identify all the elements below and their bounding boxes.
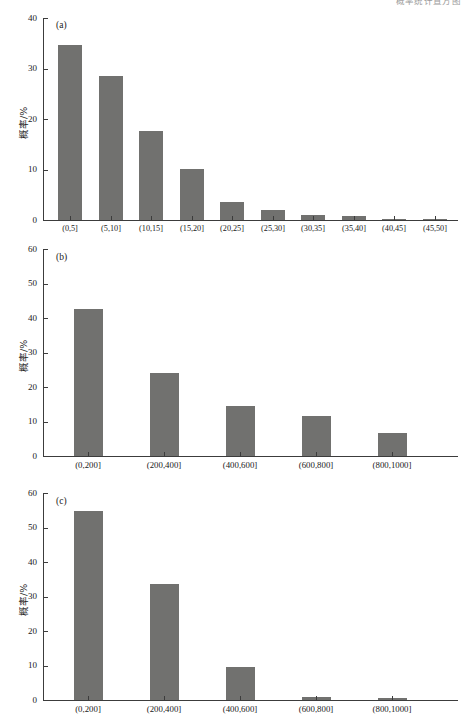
x-tick-a-0 <box>70 216 71 220</box>
panel-tag-b: (b) <box>56 252 67 262</box>
bar-a-2 <box>139 131 163 220</box>
x-tick-label-c-0: (0,200] <box>53 704 123 714</box>
bar-a-1 <box>99 76 123 220</box>
y-tick-c-40 <box>44 562 48 563</box>
x-tick-label-c-4: (800,1000] <box>357 704 427 714</box>
x-tick-c-0 <box>88 696 89 700</box>
x-tick-b-1 <box>164 452 165 456</box>
x-tick-label-b-2: (400,600] <box>205 460 275 470</box>
x-tick-b-2 <box>240 452 241 456</box>
x-tick-a-4 <box>232 216 233 220</box>
bar-b-1 <box>150 373 179 456</box>
bar-a-3 <box>180 169 204 220</box>
y-tick-a-40 <box>44 18 48 19</box>
x-tick-label-c-3: (600,800] <box>281 704 351 714</box>
x-tick-b-4 <box>392 452 393 456</box>
y-tick-c-50 <box>44 528 48 529</box>
y-tick-a-20 <box>44 119 48 120</box>
y-tick-label-a-30: 30 <box>11 64 37 73</box>
y-tick-label-c-10: 10 <box>11 661 37 670</box>
y-tick-b-60 <box>44 249 48 250</box>
x-tick-a-9 <box>435 216 436 220</box>
y-axis-title-b: 概率/% <box>16 340 30 372</box>
bar-b-0 <box>74 309 103 456</box>
y-axis-title-a: 概率/% <box>16 107 30 139</box>
x-tick-label-b-0: (0,200] <box>53 460 123 470</box>
y-tick-label-c-50: 50 <box>11 523 37 532</box>
bar-c-1 <box>150 584 179 700</box>
x-tick-b-0 <box>88 452 89 456</box>
y-tick-label-a-40: 40 <box>11 14 37 23</box>
x-tick-a-3 <box>192 216 193 220</box>
x-tick-label-b-4: (800,1000] <box>357 460 427 470</box>
x-tick-c-2 <box>240 696 241 700</box>
y-tick-label-b-40: 40 <box>11 314 37 323</box>
y-tick-label-b-60: 60 <box>11 245 37 254</box>
y-tick-a-10 <box>44 170 48 171</box>
y-tick-b-30 <box>44 353 48 354</box>
y-tick-b-20 <box>44 387 48 388</box>
y-tick-label-b-0: 0 <box>11 452 37 461</box>
x-tick-label-c-2: (400,600] <box>205 704 275 714</box>
y-tick-c-60 <box>44 493 48 494</box>
y-tick-c-10 <box>44 666 48 667</box>
y-tick-a-30 <box>44 69 48 70</box>
bar-b-3 <box>302 416 331 456</box>
y-tick-b-40 <box>44 318 48 319</box>
x-tick-a-1 <box>111 216 112 220</box>
x-tick-label-b-1: (200,400] <box>129 460 199 470</box>
y-tick-c-20 <box>44 631 48 632</box>
y-tick-label-b-50: 50 <box>11 279 37 288</box>
x-tick-b-3 <box>316 452 317 456</box>
bar-b-2 <box>226 406 255 456</box>
y-tick-label-c-0: 0 <box>11 696 37 705</box>
x-tick-c-4 <box>392 696 393 700</box>
panel-tag-a: (a) <box>56 20 67 30</box>
y-tick-label-c-40: 40 <box>11 558 37 567</box>
y-tick-b-50 <box>44 284 48 285</box>
x-tick-a-2 <box>151 216 152 220</box>
x-tick-a-6 <box>313 216 314 220</box>
y-tick-label-b-20: 20 <box>11 383 37 392</box>
y-tick-c-30 <box>44 597 48 598</box>
x-tick-label-a-9: (45,50] <box>400 224 467 234</box>
y-tick-label-a-0: 0 <box>11 216 37 225</box>
bar-a-0 <box>58 45 82 220</box>
y-tick-label-a-10: 10 <box>11 165 37 174</box>
x-axis-line-c <box>43 700 458 701</box>
y-tick-label-b-10: 10 <box>11 417 37 426</box>
x-tick-a-8 <box>394 216 395 220</box>
x-tick-c-1 <box>164 696 165 700</box>
x-axis-line-a <box>43 220 458 221</box>
bar-c-0 <box>74 511 103 700</box>
x-tick-label-c-1: (200,400] <box>129 704 199 714</box>
clipped-header-text: 概率统计直方图 <box>0 0 467 7</box>
x-tick-a-7 <box>354 216 355 220</box>
x-tick-c-3 <box>316 696 317 700</box>
y-tick-b-10 <box>44 422 48 423</box>
x-tick-a-5 <box>273 216 274 220</box>
y-tick-label-c-60: 60 <box>11 489 37 498</box>
x-tick-label-b-3: (600,800] <box>281 460 351 470</box>
panel-tag-c: (c) <box>56 496 67 506</box>
clipped-header-label: 概率统计直方图 <box>0 0 467 6</box>
x-axis-line-b <box>43 456 458 457</box>
y-axis-title-c: 概率/% <box>16 584 30 616</box>
y-tick-label-c-20: 20 <box>11 627 37 636</box>
